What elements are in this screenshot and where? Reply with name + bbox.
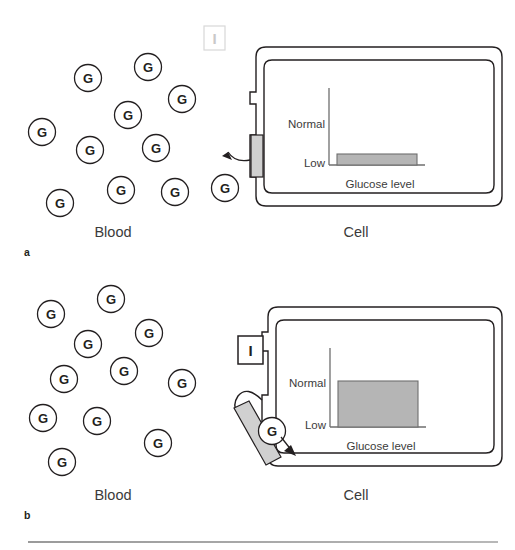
glucose-transporter-closed-a	[251, 135, 263, 177]
glucose-molecule: G	[162, 179, 189, 206]
glucose-molecule: G	[98, 286, 125, 313]
glucose-molecule: G	[169, 370, 196, 397]
chart-bar-a	[337, 154, 417, 165]
glucose-molecule: G	[51, 366, 78, 393]
cell-label-b: Cell	[344, 487, 369, 503]
glucose-molecule: G	[115, 102, 142, 129]
glucose-letter: G	[153, 436, 163, 451]
glucose-letter: G	[177, 376, 187, 391]
glucose-level-chart-b: Normal Low Glucose level	[289, 348, 426, 452]
cell-label-a: Cell	[344, 224, 369, 240]
glucose-letter: G	[151, 141, 161, 156]
glucose-molecule: G	[143, 135, 170, 162]
panel-a: I G G G	[0, 0, 515, 275]
glucose-level-chart-a: Normal Low Glucose level	[288, 88, 425, 190]
blood-label-b: Blood	[94, 487, 131, 503]
glucose-letter: G	[177, 92, 187, 107]
glucose-molecule: G	[169, 86, 196, 113]
glucose-letter: G	[92, 414, 102, 429]
chart-tick-low-a: Low	[304, 157, 326, 169]
panel-letter-a: a	[24, 246, 30, 258]
glucose-letter: G	[37, 125, 47, 140]
glucose-molecule: G	[75, 331, 102, 358]
glucose-letter: G	[144, 326, 154, 341]
glucose-letter: G	[220, 181, 230, 196]
glucose-molecule: G	[135, 54, 162, 81]
glucose-letter: G	[119, 364, 129, 379]
glucose-molecule: G	[77, 137, 104, 164]
glucose-letter: G	[57, 455, 67, 470]
chart-xlabel-a: Glucose level	[345, 178, 414, 190]
insulin-box-letter-a: I	[212, 30, 216, 47]
glucose-letter: G	[55, 196, 65, 211]
glucose-letter: G	[106, 292, 116, 307]
glucose-letter: G	[143, 60, 153, 75]
glucose-molecule: G	[111, 358, 138, 385]
insulin-box-b: I	[238, 336, 263, 364]
glucose-molecule: G	[30, 405, 57, 432]
glucose-molecule: G	[38, 301, 65, 328]
glucose-entry-arrow-a	[222, 152, 250, 161]
glucose-molecule: G	[108, 177, 135, 204]
glucose-letter: G	[170, 185, 180, 200]
figure-footer-rule	[28, 541, 498, 543]
blood-glucose-group-b: G G G G G G G	[30, 286, 196, 476]
glucose-molecule: G	[49, 449, 76, 476]
glucose-letter: G	[116, 183, 126, 198]
arrow-head-b	[284, 445, 296, 456]
chart-xlabel-b: Glucose level	[346, 440, 415, 452]
glucose-molecule: G	[145, 430, 172, 457]
chart-tick-low-b: Low	[305, 419, 327, 431]
glucose-molecule: G	[75, 65, 102, 92]
insulin-box-a: I	[204, 26, 225, 50]
figure-root: I G G G	[0, 0, 515, 550]
glucose-molecule: G	[29, 119, 56, 146]
glucose-molecule: G	[47, 190, 74, 217]
glucose-letter: G	[267, 424, 277, 439]
chart-tick-normal-a: Normal	[288, 118, 325, 130]
blood-label-a: Blood	[94, 224, 131, 240]
glucose-letter: G	[83, 337, 93, 352]
panel-letter-b: b	[24, 509, 30, 521]
panel-b: I G G G	[0, 275, 515, 550]
blood-glucose-group-a: G G G G G G G	[29, 54, 196, 217]
glucose-molecule: G	[84, 408, 111, 435]
glucose-letter: G	[46, 307, 56, 322]
glucose-molecule: G	[136, 320, 163, 347]
glucose-letter: G	[59, 372, 69, 387]
insulin-box-letter-b: I	[248, 342, 252, 359]
chart-bar-b	[338, 381, 418, 427]
glucose-entering-b: G	[259, 418, 286, 445]
glucose-letter: G	[123, 108, 133, 123]
glucose-letter: G	[38, 411, 48, 426]
glucose-letter: G	[85, 143, 95, 158]
chart-tick-normal-b: Normal	[289, 377, 326, 389]
glucose-letter: G	[83, 71, 93, 86]
glucose-at-membrane-a: G	[212, 175, 239, 202]
